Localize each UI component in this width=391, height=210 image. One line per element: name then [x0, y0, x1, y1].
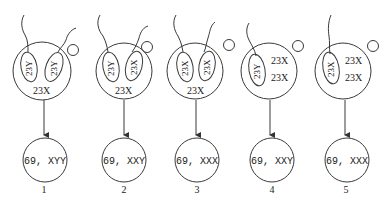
case-5: 23X 23X 23X 69, XXX 5 [315, 15, 379, 195]
egg-label: 23X [33, 85, 51, 96]
case-3: 23X 23X 23X 69, XXX 3 [167, 15, 235, 195]
sperm-label: 23X [180, 60, 190, 76]
egg-label: 23X [187, 85, 205, 96]
case-number: 2 [122, 184, 127, 195]
sperm-label: 23Y [24, 60, 34, 76]
case-number: 1 [42, 184, 47, 195]
polar-body [68, 45, 79, 56]
polar-body [368, 41, 379, 52]
sperm-label: 23Y [49, 60, 59, 76]
egg-label: 23X [345, 72, 363, 83]
polar-body [293, 41, 304, 52]
sperm-label: 23X [129, 59, 139, 75]
sperm-tail [98, 15, 108, 52]
case-2: 23Y 23X 23X 69, XXY 2 [96, 15, 153, 195]
case-number: 4 [270, 184, 275, 195]
case-4: 23Y 23X 23X 69, XXY 4 [241, 23, 304, 195]
sperm-tail [58, 28, 76, 52]
fertilized-egg: 23X 23X 23X [167, 15, 235, 99]
karyotype-label: 69, XXX [176, 156, 218, 167]
egg-label: 23X [345, 55, 363, 66]
sperm-tail [174, 15, 183, 52]
sperm-tail [328, 15, 331, 54]
fertilized-egg: 23Y 23X 23X [241, 23, 304, 99]
egg-label: 23X [271, 72, 289, 83]
egg-label: 23X [115, 85, 133, 96]
karyotype-label: 69, XXX [326, 156, 368, 167]
sperm-label: 23Y [106, 60, 116, 76]
karyotype-label: 69, XYY [24, 156, 66, 167]
sperm-label: 23X [326, 61, 336, 77]
sperm-label: 23X [202, 59, 212, 75]
case-1: 23Y 23Y 23X 69, XYY 1 [13, 15, 79, 195]
sperm-tail [247, 23, 256, 56]
case-number: 3 [195, 184, 200, 195]
fertilized-egg: 23Y 23Y 23X [13, 15, 79, 100]
polar-body [224, 40, 235, 51]
triploidy-diagram: 23Y 23Y 23X 69, XYY 1 23Y 23X 23X 69, XX… [0, 0, 391, 210]
polar-body [142, 42, 153, 53]
sperm-label: 23Y [252, 63, 262, 79]
karyotype-label: 69, XXY [251, 156, 293, 167]
case-number: 5 [344, 184, 349, 195]
fertilized-egg: 23Y 23X 23X [96, 15, 153, 99]
karyotype-label: 69, XXY [103, 156, 145, 167]
egg-label: 23X [271, 55, 289, 66]
fertilized-egg: 23X 23X 23X [315, 15, 379, 99]
